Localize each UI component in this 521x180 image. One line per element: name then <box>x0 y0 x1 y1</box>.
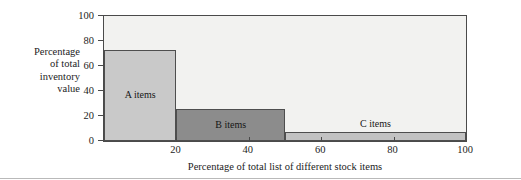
x-tick-100 <box>466 137 467 142</box>
y-tick-80: 80 <box>98 40 104 41</box>
y-axis-label-line-4: value <box>6 83 80 95</box>
bar-label-a-items: A items <box>125 89 156 100</box>
bars-group: A itemsB itemsC items <box>104 16 466 141</box>
y-axis-label-line-1: Percentage <box>6 46 80 58</box>
y-tick-label-40: 40 <box>84 84 95 98</box>
y-tick-label-80: 80 <box>84 34 95 48</box>
y-tick-0: 0 <box>98 140 104 141</box>
y-axis-label-line-2: of total <box>6 58 80 70</box>
x-axis-label: Percentage of total list of different st… <box>103 161 467 172</box>
bar-label-c-items: C items <box>360 118 391 129</box>
y-tick-100: 100 <box>98 15 104 16</box>
x-tick-label-80: 80 <box>387 144 398 155</box>
x-tick-label-100: 100 <box>457 144 473 155</box>
y-tick-20: 20 <box>98 115 104 116</box>
x-tick-80 <box>394 137 395 142</box>
y-tick-40: 40 <box>98 90 104 91</box>
footer-divider <box>0 178 521 179</box>
y-tick-label-100: 100 <box>78 9 94 23</box>
bar-b-items: B items <box>176 109 285 142</box>
x-tick-40 <box>249 137 250 142</box>
y-tick-label-20: 20 <box>84 109 95 123</box>
abc-inventory-analysis-chart: Percentage of total inventory value A it… <box>0 0 521 180</box>
y-tick-label-60: 60 <box>84 59 95 73</box>
y-axis-label: Percentage of total inventory value <box>6 46 80 96</box>
bar-label-b-items: B items <box>215 119 246 130</box>
x-tick-60 <box>321 137 322 142</box>
y-tick-label-0: 0 <box>89 134 94 148</box>
bar-c-items: C items <box>285 132 466 141</box>
y-tick-60: 60 <box>98 65 104 66</box>
x-tick-label-20: 20 <box>170 144 181 155</box>
plot-area: A itemsB itemsC items 020406080100 <box>103 15 467 142</box>
y-axis-label-line-3: inventory <box>6 71 80 83</box>
bar-a-items: A items <box>104 50 176 141</box>
x-tick-label-60: 60 <box>315 144 326 155</box>
x-tick-20 <box>176 137 177 142</box>
x-tick-label-40: 40 <box>243 144 254 155</box>
